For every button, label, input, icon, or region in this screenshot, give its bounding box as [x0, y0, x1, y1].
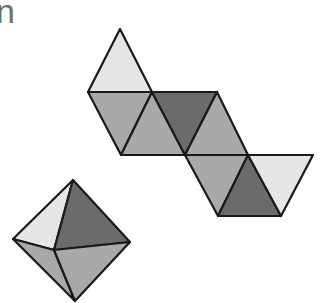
octahedron-diagram	[0, 0, 323, 303]
octahedron-solid	[13, 180, 130, 301]
face-top-apex	[88, 29, 152, 92]
octahedron-net	[88, 29, 313, 216]
